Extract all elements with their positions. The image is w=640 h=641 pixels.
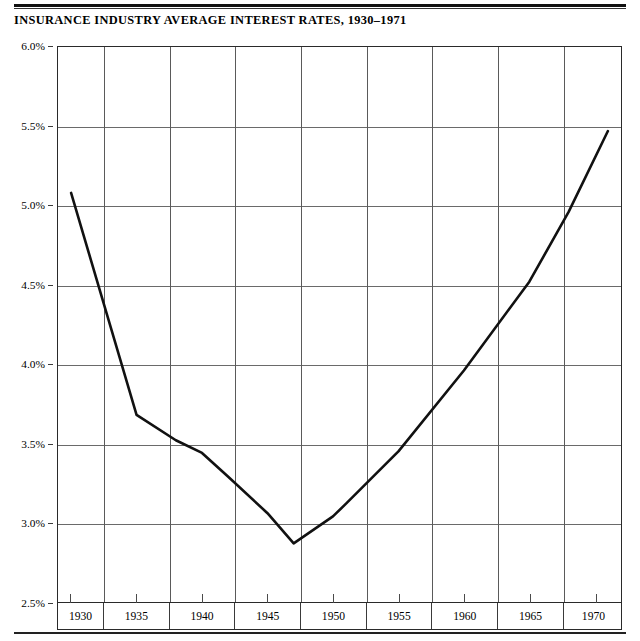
x-axis-tick-label: 1940 <box>170 603 236 629</box>
plot-area <box>57 46 622 603</box>
x-axis-tick-mark <box>464 594 465 603</box>
y-axis-tick-mark <box>48 444 53 445</box>
top-rule-thick <box>14 4 626 7</box>
y-axis-tick-mark <box>48 523 53 524</box>
y-axis-tick-mark <box>48 205 53 206</box>
line-series <box>58 47 621 602</box>
y-axis-tick-mark <box>48 603 53 604</box>
x-axis-tick-mark <box>202 594 203 603</box>
x-axis-tick-mark <box>136 594 137 603</box>
bottom-rule <box>14 632 626 634</box>
x-axis-tick-mark <box>70 594 71 603</box>
x-axis-tick-mark <box>530 594 531 603</box>
y-axis-labels: 6.0%5.5%5.0%4.5%4.0%3.5%3.0%2.5% <box>0 46 53 603</box>
y-axis-tick-mark <box>48 126 53 127</box>
y-axis-tick-mark <box>48 285 53 286</box>
series-polyline <box>71 131 608 543</box>
x-axis-tick-label: 1960 <box>432 603 498 629</box>
x-axis-label-row: 193019351940194519501955196019651970 <box>57 603 622 630</box>
x-axis-tick-mark <box>596 594 597 603</box>
x-axis-tick-label: 1970 <box>564 603 623 629</box>
y-axis-tick-label: 4.5% <box>21 279 45 291</box>
y-axis-tick-label: 2.5% <box>21 597 45 609</box>
x-axis-tick-label: 1950 <box>301 603 367 629</box>
y-axis-tick-label: 4.0% <box>21 358 45 370</box>
top-rule-thin <box>14 8 626 9</box>
y-axis-tick-mark <box>48 46 53 47</box>
y-axis-tick-label: 5.5% <box>21 120 45 132</box>
x-axis-tick-mark <box>399 594 400 603</box>
y-axis-tick-mark <box>48 364 53 365</box>
x-axis-tick-mark <box>267 594 268 603</box>
x-axis-tick-label: 1955 <box>367 603 433 629</box>
y-axis-tick-label: 6.0% <box>21 40 45 52</box>
page-title: INSURANCE INDUSTRY AVERAGE INTEREST RATE… <box>14 13 407 28</box>
y-axis-tick-label: 3.0% <box>21 517 45 529</box>
y-axis-tick-label: 5.0% <box>21 199 45 211</box>
x-axis-tick-label: 1930 <box>58 603 104 629</box>
y-axis-tick-label: 3.5% <box>21 438 45 450</box>
x-axis-tick-label: 1945 <box>235 603 301 629</box>
x-axis-tick-label: 1935 <box>104 603 170 629</box>
x-axis-tick-label: 1965 <box>498 603 564 629</box>
x-axis-tick-mark <box>333 594 334 603</box>
figure-container: INSURANCE INDUSTRY AVERAGE INTEREST RATE… <box>0 0 640 641</box>
